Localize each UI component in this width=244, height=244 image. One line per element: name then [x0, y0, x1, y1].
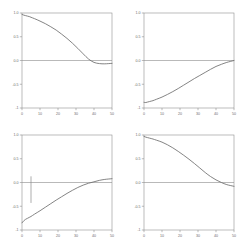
- x-tick-label: 50: [110, 234, 114, 238]
- x-tick-label: 10: [160, 234, 164, 238]
- plot-bottom-right: 1.00.50.0-0.5-101020304050: [122, 122, 244, 244]
- data-curve: [22, 14, 112, 63]
- y-tick-label: -1: [137, 228, 140, 232]
- x-tick-label: 50: [110, 112, 114, 116]
- x-tick-label: 20: [56, 112, 60, 116]
- x-tick-label: 30: [74, 234, 78, 238]
- x-tick-label: 50: [232, 112, 236, 116]
- x-tick-label: 0: [143, 112, 145, 116]
- y-tick-label: -0.5: [12, 83, 18, 87]
- y-tick-label: -1: [15, 228, 18, 232]
- chart-panel-bottom-right: 1.00.50.0-0.5-101020304050: [122, 122, 244, 244]
- y-tick-label: -0.5: [134, 205, 140, 209]
- y-tick-label: 1.0: [135, 133, 140, 137]
- y-tick-label: 0.0: [135, 181, 140, 185]
- x-tick-label: 30: [74, 112, 78, 116]
- y-tick-label: 0.5: [135, 35, 140, 39]
- y-tick-label: -1: [15, 106, 18, 110]
- plot-bottom-left: 1.00.50.0-0.5-101020304050: [0, 122, 122, 244]
- y-tick-label: 0.5: [135, 157, 140, 161]
- chart-panel-top-left: 1.00.50.0-0.5-101020304050: [0, 0, 122, 122]
- x-tick-label: 40: [92, 112, 96, 116]
- x-tick-label: 10: [160, 112, 164, 116]
- x-tick-label: 10: [38, 112, 42, 116]
- y-tick-label: -0.5: [134, 83, 140, 87]
- figure-panel-grid: 1.00.50.0-0.5-101020304050 1.00.50.0-0.5…: [0, 0, 243, 244]
- x-tick-label: 50: [232, 234, 236, 238]
- y-tick-label: 0.0: [14, 181, 19, 185]
- y-tick-label: 0.0: [135, 59, 140, 63]
- data-curve: [144, 61, 234, 103]
- y-tick-label: 1.0: [14, 11, 19, 15]
- x-tick-label: 0: [21, 234, 23, 238]
- data-curve: [144, 136, 234, 186]
- y-tick-label: 1.0: [135, 11, 140, 15]
- x-tick-label: 40: [214, 234, 218, 238]
- chart-panel-bottom-left: 1.00.50.0-0.5-101020304050: [0, 122, 122, 244]
- data-curve: [22, 179, 112, 223]
- x-tick-label: 20: [178, 234, 182, 238]
- x-tick-label: 10: [38, 234, 42, 238]
- y-tick-label: -0.5: [12, 205, 18, 209]
- x-tick-label: 40: [214, 112, 218, 116]
- x-tick-label: 20: [56, 234, 60, 238]
- chart-panel-top-right: 1.00.50.0-0.5-101020304050: [122, 0, 244, 122]
- y-tick-label: 0.0: [14, 59, 19, 63]
- x-tick-label: 0: [21, 112, 23, 116]
- x-tick-label: 30: [196, 234, 200, 238]
- x-tick-label: 0: [143, 234, 145, 238]
- x-tick-label: 40: [92, 234, 96, 238]
- x-tick-label: 30: [196, 112, 200, 116]
- x-tick-label: 20: [178, 112, 182, 116]
- y-tick-label: -1: [137, 106, 140, 110]
- y-tick-label: 1.0: [14, 133, 19, 137]
- y-tick-label: 0.5: [14, 157, 19, 161]
- plot-top-right: 1.00.50.0-0.5-101020304050: [122, 0, 244, 122]
- plot-top-left: 1.00.50.0-0.5-101020304050: [0, 0, 122, 122]
- y-tick-label: 0.5: [14, 35, 19, 39]
